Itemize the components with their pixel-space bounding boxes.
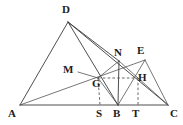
GN-line [98,61,119,78]
vertex-label-s: S [96,108,102,119]
vertex-label-g: G [92,78,101,89]
figure-canvas [0,0,183,125]
vertex-label-m: M [63,64,73,75]
AD-side [20,22,68,105]
vertex-label-d: D [62,4,70,15]
EC-line [145,60,168,105]
DB-cevian [68,22,118,105]
vertex-label-t: T [132,108,139,119]
vertex-label-c: C [170,108,178,119]
AE-line [20,60,145,105]
DN-line [68,22,119,61]
vertex-label-h: H [138,72,147,83]
vertex-label-b: B [113,108,120,119]
vertex-label-a: A [8,108,16,119]
solid-edge-group [20,22,168,105]
geometry-figure: ADCSBTGMNEH [0,0,183,125]
vertex-label-e: E [137,45,144,56]
NB-line [118,61,119,105]
GB-line [98,78,118,105]
vertex-label-n: N [114,47,122,58]
